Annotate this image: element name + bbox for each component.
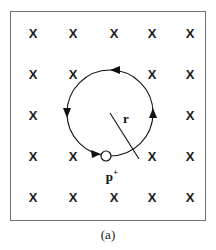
field-into-page-mark: X [183,150,197,164]
field-into-page-mark: X [66,27,80,41]
field-into-page-mark: X [145,68,159,82]
figure-root: XXXXXXXXXXXXXXXXXXXX r p+ (a) [0,0,216,250]
field-into-page-mark: X [26,191,40,205]
field-into-page-mark: X [183,68,197,82]
field-into-page-mark: X [145,27,159,41]
field-into-page-mark: X [107,191,121,205]
field-into-page-mark: X [183,109,197,123]
proton-charge: + [113,167,118,177]
figure-caption: (a) [0,227,216,243]
field-into-page-mark: X [66,150,80,164]
field-into-page-mark: X [183,27,197,41]
field-into-page-mark: X [107,27,121,41]
field-into-page-mark: X [26,68,40,82]
field-into-page-mark: X [66,68,80,82]
field-into-page-mark: X [183,191,197,205]
field-into-page-mark: X [145,191,159,205]
proton-label: p+ [106,170,118,183]
field-into-page-mark: X [26,27,40,41]
field-into-page-mark: X [66,191,80,205]
radius-label: r [123,112,129,125]
field-into-page-mark: X [26,150,40,164]
field-into-page-mark: X [145,150,159,164]
field-into-page-mark: X [26,109,40,123]
